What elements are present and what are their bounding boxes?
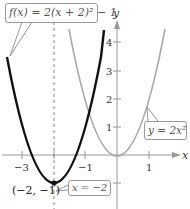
y-axis-arrow-icon: [114, 20, 120, 29]
g-label-callout: [147, 107, 158, 121]
ytick-label-3: 3: [106, 66, 112, 77]
x-axis-arrow-icon: [172, 152, 181, 158]
axis-label-box: x = −2: [68, 180, 111, 196]
g-label-box: y = 2x²: [144, 121, 187, 140]
xtick-label-m1: −1: [78, 162, 93, 173]
chart-canvas: −3 −1 1 4 3 2 1 x y (−2, −1): [0, 0, 190, 209]
ytick-label-2: 2: [106, 94, 112, 105]
xtick-label-m3: −3: [14, 162, 29, 173]
f-label-box: f(x) = 2(x + 2)² − 1: [5, 3, 98, 23]
ytick-label-1: 1: [106, 122, 112, 133]
x-axis-label: x: [182, 149, 189, 162]
ytick-label-4: 4: [106, 37, 112, 48]
xtick-label-1: 1: [146, 162, 152, 173]
f-label-callout: [10, 22, 32, 56]
vertex-label: (−2, −1): [12, 184, 60, 197]
